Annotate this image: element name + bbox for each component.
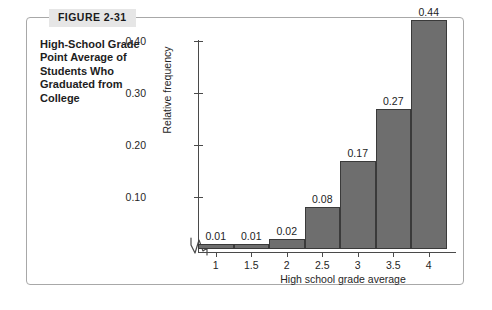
y-axis-tick: [194, 41, 203, 42]
x-axis-tick-label: 4: [409, 259, 449, 271]
x-axis-tick: [322, 252, 323, 257]
bar-value-label: 0.17: [336, 147, 380, 159]
x-axis-tick-label: 2: [267, 259, 307, 271]
x-axis-tick: [216, 252, 217, 257]
x-axis-tick: [429, 252, 430, 257]
figure-root: FIGURE 2-31 High-School Grade Point Aver…: [0, 0, 492, 310]
x-axis-tick-label: 2.5: [302, 259, 342, 271]
chart-plot-area: Relative frequency 0.100.200.300.40 11.5…: [150, 30, 458, 282]
x-axis-tick-label: 1.5: [231, 259, 271, 271]
y-axis-tick: [194, 93, 203, 94]
x-axis-line: [198, 252, 456, 253]
y-axis-tick-label: 0.10: [106, 191, 146, 203]
bar-value-label: 0.27: [371, 95, 415, 107]
x-axis-tick-label: 3: [338, 259, 378, 271]
y-axis-tick-label: 0.30: [106, 87, 146, 99]
x-axis-tick: [393, 252, 394, 257]
bar: [269, 239, 305, 249]
bar: [376, 109, 412, 249]
figure-number-badge: FIGURE 2-31: [49, 9, 136, 27]
bar: [340, 161, 376, 249]
x-axis-title: High school grade average: [230, 273, 456, 285]
bar-value-label: 0.02: [265, 225, 309, 237]
x-axis-tick-label: 1: [196, 259, 236, 271]
x-axis-tick-label: 3.5: [373, 259, 413, 271]
bar: [198, 244, 234, 249]
bar: [305, 207, 341, 249]
x-axis-tick: [358, 252, 359, 257]
x-axis-tick: [251, 252, 252, 257]
bar: [234, 244, 270, 249]
bar-value-label: 0.44: [407, 6, 451, 18]
bar-value-label: 0.08: [300, 193, 344, 205]
bar: [411, 20, 447, 249]
y-axis-tick: [194, 197, 203, 198]
x-axis-tick: [287, 252, 288, 257]
y-axis-tick: [194, 145, 203, 146]
y-axis-title: Relative frequency: [161, 35, 173, 145]
y-axis-tick-label: 0.40: [106, 35, 146, 47]
y-axis-tick-label: 0.20: [106, 139, 146, 151]
